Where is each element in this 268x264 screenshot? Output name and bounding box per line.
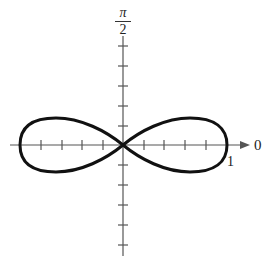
pi-over-2-label: π 2: [113, 6, 133, 37]
pi-symbol: π: [113, 6, 133, 20]
zero-angle-label: 0: [254, 138, 262, 153]
arrow-head-icon: [240, 141, 250, 149]
polar-graph: [0, 0, 268, 264]
radius-one-label: 1: [227, 155, 234, 169]
denominator: 2: [113, 23, 133, 37]
